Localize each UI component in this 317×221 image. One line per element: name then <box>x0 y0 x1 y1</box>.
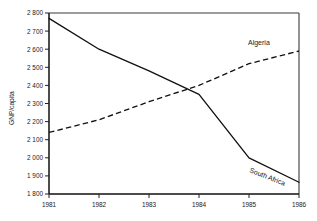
y-tick-label-2700: 2 700 <box>27 28 43 35</box>
x-tick-label-1986: 1986 <box>292 201 307 208</box>
y-tick-label-2400: 2 400 <box>27 82 43 89</box>
x-tick-label-1982: 1982 <box>92 201 107 208</box>
series-line-algeria <box>49 51 299 132</box>
y-tick-label-2800: 2 800 <box>27 9 43 16</box>
x-tick-label-1985: 1985 <box>242 201 257 208</box>
x-tick-label-1981: 1981 <box>42 201 57 208</box>
y-tick-label-2300: 2 300 <box>27 100 43 107</box>
series-label-south-africa: South Africa <box>249 166 287 186</box>
y-axis-tick-labels: 2 800 2 700 2 600 2 500 2 400 2 300 2 20… <box>27 9 43 197</box>
y-tick-label-1900: 1 900 <box>27 172 43 179</box>
x-axis-tick-labels: 1981 1982 1983 1984 1985 1986 <box>42 201 307 208</box>
y-tick-label-2000: 2 000 <box>27 154 43 161</box>
y-tick-label-2100: 2 100 <box>27 136 43 143</box>
y-tick-label-2500: 2 500 <box>27 64 43 71</box>
chart-figure: 2 800 2 700 2 600 2 500 2 400 2 300 2 20… <box>0 0 317 221</box>
x-tick-label-1984: 1984 <box>192 201 207 208</box>
line-chart-canvas: 2 800 2 700 2 600 2 500 2 400 2 300 2 20… <box>0 0 317 221</box>
x-tick-label-1983: 1983 <box>142 201 157 208</box>
y-tick-label-2600: 2 600 <box>27 46 43 53</box>
y-tick-label-1800: 1 800 <box>27 190 43 197</box>
series-label-algeria: Algeria <box>248 39 270 47</box>
y-axis-title: GNP/capita <box>8 91 16 125</box>
y-tick-label-2200: 2 200 <box>27 118 43 125</box>
